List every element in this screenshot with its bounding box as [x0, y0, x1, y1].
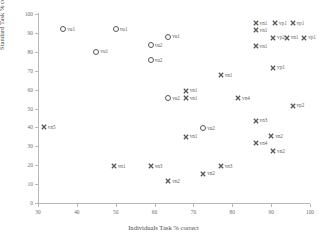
- x-tick-mark: [271, 204, 272, 207]
- y-tick-label: 40: [28, 124, 33, 130]
- x-tick-mark: [38, 204, 39, 207]
- data-point-label: vn2: [207, 170, 215, 176]
- x-tick-mark: [116, 204, 117, 207]
- x-cross-marker-icon: [148, 163, 154, 169]
- y-tick-label: 90: [28, 30, 33, 36]
- x-cross-marker-icon: [268, 133, 274, 139]
- data-point-label: vu2: [155, 57, 163, 63]
- x-cross-marker-icon: [253, 27, 259, 33]
- x-cross-marker-icon: [253, 20, 259, 26]
- x-cross-marker-icon: [253, 43, 259, 49]
- data-point-label: vn1: [260, 27, 268, 33]
- data-point-label: vu1: [120, 26, 128, 32]
- data-point-label: vn1: [118, 163, 126, 169]
- data-point-label: vp1: [297, 20, 305, 26]
- x-tick-mark: [232, 204, 233, 207]
- x-tick-label: 70: [191, 209, 196, 215]
- x-cross-marker-icon: [183, 95, 189, 101]
- x-cross-marker-icon: [301, 35, 307, 41]
- x-cross-marker-icon: [284, 35, 290, 41]
- data-point-label: vu1: [172, 33, 180, 39]
- x-cross-marker-icon: [272, 20, 278, 26]
- data-point-label: vn1: [190, 87, 198, 93]
- x-cross-marker-icon: [253, 118, 259, 124]
- data-point-label: vn3: [155, 163, 163, 169]
- y-tick-label: 80: [28, 49, 33, 55]
- data-point-label: vp1: [277, 64, 285, 70]
- x-tick-label: 90: [268, 209, 273, 215]
- data-point-label: vu2: [207, 125, 215, 131]
- open-circle-marker-icon: [165, 95, 171, 101]
- data-point-label: vn1: [190, 133, 198, 139]
- open-circle-marker-icon: [93, 49, 99, 55]
- open-circle-marker-icon: [148, 42, 154, 48]
- data-point-label: vu1: [67, 26, 75, 32]
- x-tick-mark: [155, 204, 156, 207]
- data-point-label: vn3: [225, 163, 233, 169]
- x-tick-label: 60: [152, 209, 157, 215]
- x-cross-marker-icon: [111, 163, 117, 169]
- x-cross-marker-icon: [200, 171, 206, 177]
- y-tick-label: 60: [28, 87, 33, 93]
- y-tick-label: 70: [28, 68, 33, 74]
- x-cross-marker-icon: [183, 88, 189, 94]
- y-tick-label: 20: [28, 162, 33, 168]
- x-cross-marker-icon: [218, 72, 224, 78]
- data-point-label: vn1: [225, 72, 233, 78]
- scatter-chart-figure: 0102030405060708090100 30405060708090100…: [0, 0, 327, 242]
- open-circle-marker-icon: [113, 26, 119, 32]
- data-point-label: vn1: [260, 20, 268, 26]
- data-point-label: vn3: [260, 117, 268, 123]
- data-point-label: vp1: [279, 20, 287, 26]
- x-tick-label: 80: [230, 209, 235, 215]
- x-cross-marker-icon: [183, 134, 189, 140]
- x-cross-marker-icon: [270, 148, 276, 154]
- y-tick-label: 0: [30, 200, 33, 206]
- x-axis-title: Individuals Task % correct: [0, 224, 327, 231]
- x-cross-marker-icon: [290, 20, 296, 26]
- x-cross-marker-icon: [270, 35, 276, 41]
- open-circle-marker-icon: [60, 26, 66, 32]
- data-point-label: vp2: [297, 102, 305, 108]
- open-circle-marker-icon: [148, 57, 154, 63]
- x-cross-marker-icon: [253, 140, 259, 146]
- plot-area: vu1vu1vu1vu1vu2vu2vu2vu2vn1vp1vp1vn1vp2v…: [38, 14, 310, 203]
- x-axis-line: [38, 203, 310, 204]
- y-tick-label: 100: [25, 11, 33, 17]
- data-point-label: vu2: [155, 42, 163, 48]
- open-circle-marker-icon: [200, 125, 206, 131]
- data-point-label: vp1: [308, 34, 316, 40]
- y-tick-label: 50: [28, 106, 33, 112]
- x-cross-marker-icon: [270, 65, 276, 71]
- data-point-label: vn1: [260, 43, 268, 49]
- open-circle-marker-icon: [165, 34, 171, 40]
- x-tick-label: 40: [74, 209, 79, 215]
- data-point-label: vn2: [277, 148, 285, 154]
- y-tick-label: 10: [28, 181, 33, 187]
- data-point-label: vn4: [260, 140, 268, 146]
- data-point-label: vu2: [172, 95, 180, 101]
- x-cross-marker-icon: [290, 103, 296, 109]
- data-point-label: vu1: [100, 48, 108, 54]
- x-cross-marker-icon: [41, 124, 47, 130]
- y-tick-label: 30: [28, 143, 33, 149]
- data-point-label: vn2: [172, 178, 180, 184]
- data-point-label: vn1: [291, 34, 299, 40]
- data-point-label: vn5: [48, 124, 56, 130]
- data-point-label: vn4: [242, 95, 250, 101]
- x-tick-label: 100: [306, 209, 314, 215]
- x-tick-label: 50: [113, 209, 118, 215]
- x-tick-label: 30: [35, 209, 40, 215]
- x-cross-marker-icon: [165, 178, 171, 184]
- x-tick-mark: [77, 204, 78, 207]
- x-cross-marker-icon: [218, 163, 224, 169]
- y-axis-title: Standard Task % correct: [0, 0, 5, 50]
- data-point-label: vn1: [190, 95, 198, 101]
- data-point-label: vn2: [275, 133, 283, 139]
- x-tick-mark: [310, 204, 311, 207]
- x-cross-marker-icon: [235, 95, 241, 101]
- x-tick-mark: [193, 204, 194, 207]
